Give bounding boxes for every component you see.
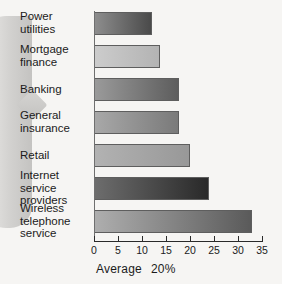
- category-label-general-insurance: General insurance: [20, 109, 92, 134]
- category-label-mortgage-finance: Mortgage finance: [20, 43, 92, 68]
- x-axis-tick-20: [190, 236, 191, 242]
- x-axis-tick-label-0: 0: [82, 244, 106, 256]
- bar-mortgage-finance: [94, 45, 160, 68]
- bar-general-insurance: [94, 111, 179, 134]
- bar-banking: [94, 78, 179, 101]
- x-axis-tick-0: [94, 236, 95, 242]
- category-label-wireless-telephone-service: Wireless telephone service: [20, 202, 92, 240]
- x-axis-tick-label-25: 25: [202, 244, 226, 256]
- bar-chart-figure: Power utilities Mortgage finance Banking…: [0, 0, 282, 284]
- x-axis-line: [94, 241, 262, 242]
- y-axis-line: [94, 11, 95, 242]
- x-axis-tick-35: [262, 236, 263, 242]
- x-axis-caption-value: 20%: [151, 262, 176, 276]
- category-label-banking: Banking: [20, 83, 92, 96]
- x-axis-caption: Average20%: [96, 262, 176, 276]
- category-label-power-utilities: Power utilities: [20, 10, 92, 35]
- x-axis-caption-label: Average: [96, 262, 142, 276]
- bar-wireless-telephone-service: [94, 210, 252, 233]
- bar-power-utilities: [94, 12, 152, 35]
- x-axis-tick-10: [142, 236, 143, 242]
- x-axis-tick-label-20: 20: [178, 244, 202, 256]
- x-axis-tick-label-5: 5: [106, 244, 130, 256]
- bar-retail: [94, 144, 190, 167]
- bar-internet-service-providers: [94, 177, 209, 200]
- x-axis-tick-label-10: 10: [130, 244, 154, 256]
- x-axis-tick-label-35: 35: [250, 244, 274, 256]
- category-label-retail: Retail: [20, 149, 92, 162]
- x-axis-tick-5: [118, 236, 119, 242]
- x-axis-tick-15: [166, 236, 167, 242]
- x-axis-tick-label-15: 15: [154, 244, 178, 256]
- x-axis-tick-30: [238, 236, 239, 242]
- x-axis-tick-label-30: 30: [226, 244, 250, 256]
- x-axis-tick-25: [214, 236, 215, 242]
- plot-area: Power utilities Mortgage finance Banking…: [0, 0, 282, 284]
